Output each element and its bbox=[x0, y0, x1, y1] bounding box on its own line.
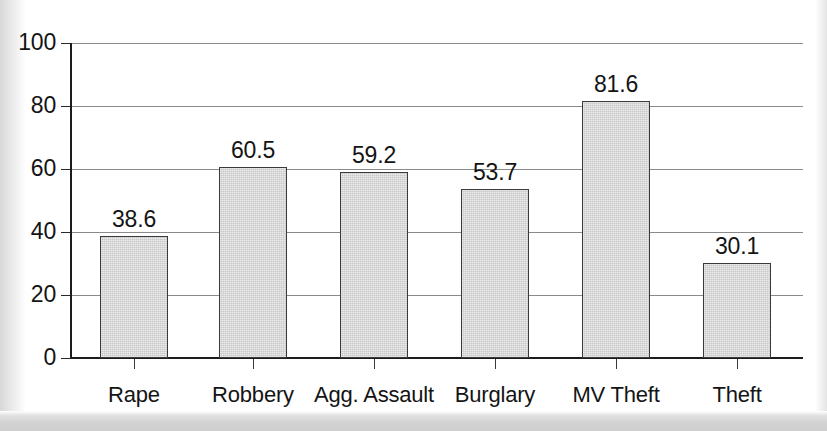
y-tick-mark bbox=[61, 358, 70, 359]
y-tick-label-slot: 40 bbox=[0, 220, 56, 244]
y-tick-label-slot: 100 bbox=[0, 31, 56, 55]
y-tick-label-slot: 60 bbox=[0, 157, 56, 181]
x-tick-mark bbox=[616, 359, 617, 369]
y-tick-label: 100 bbox=[18, 31, 56, 54]
bar-theft[interactable] bbox=[703, 263, 771, 358]
bar-value-label: 53.7 bbox=[445, 161, 545, 184]
gridline-100 bbox=[70, 43, 803, 44]
x-tick-mark bbox=[737, 359, 738, 369]
y-tick-label: 60 bbox=[31, 157, 56, 180]
gridline-60 bbox=[70, 169, 803, 170]
y-tick-label-slot: 0 bbox=[0, 346, 56, 370]
y-tick-mark bbox=[61, 106, 70, 107]
gridline-20 bbox=[70, 295, 803, 296]
bar-agg-assault[interactable] bbox=[340, 172, 408, 358]
y-tick-label: 40 bbox=[31, 220, 56, 243]
y-tick-label: 80 bbox=[31, 94, 56, 117]
bar-mv-theft[interactable] bbox=[582, 101, 650, 358]
x-tick-mark bbox=[134, 359, 135, 369]
bar-value-label: 38.6 bbox=[84, 208, 184, 231]
scanned-page: 020406080100 38.660.559.253.781.630.1 Ra… bbox=[0, 0, 827, 431]
bar-robbery[interactable] bbox=[219, 167, 287, 358]
y-tick-label-slot: 80 bbox=[0, 94, 56, 118]
x-tick-mark bbox=[495, 359, 496, 369]
x-tick-label-theft: Theft bbox=[647, 383, 827, 406]
bar-value-label: 81.6 bbox=[566, 73, 666, 96]
bar-burglary[interactable] bbox=[461, 189, 529, 358]
bar-value-label: 60.5 bbox=[203, 139, 303, 162]
y-tick-label: 20 bbox=[31, 283, 56, 306]
x-tick-mark bbox=[253, 359, 254, 369]
y-tick-mark bbox=[61, 43, 70, 44]
y-tick-mark bbox=[61, 232, 70, 233]
x-axis-line bbox=[70, 357, 803, 359]
y-tick-label-slot: 20 bbox=[0, 283, 56, 307]
bar-rape[interactable] bbox=[100, 236, 168, 358]
y-tick-label: 0 bbox=[43, 346, 56, 369]
x-tick-mark bbox=[374, 359, 375, 369]
gridline-80 bbox=[70, 106, 803, 107]
bar-value-label: 30.1 bbox=[687, 235, 787, 258]
plot-area bbox=[70, 43, 803, 358]
y-tick-mark bbox=[61, 295, 70, 296]
bar-chart: 020406080100 38.660.559.253.781.630.1 Ra… bbox=[0, 0, 827, 431]
bar-value-label: 59.2 bbox=[324, 144, 424, 167]
y-axis-line bbox=[70, 43, 72, 359]
gridline-40 bbox=[70, 232, 803, 233]
y-tick-mark bbox=[61, 169, 70, 170]
